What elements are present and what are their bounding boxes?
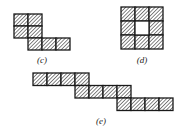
hatched-cell [56, 38, 70, 50]
hatched-cell [28, 26, 42, 38]
hatched-cell [61, 73, 75, 86]
hatched-cell [149, 35, 163, 49]
hatched-cell [47, 73, 61, 86]
hatched-cell [117, 86, 131, 99]
hatched-cell [42, 38, 56, 50]
hatched-cell [14, 26, 28, 38]
figure-label-d: (d) [137, 55, 148, 65]
hatched-cell [131, 98, 145, 111]
hatched-cell [28, 38, 42, 50]
figure-e [33, 73, 173, 111]
hatched-cell [75, 73, 89, 86]
figure-label-e: (e) [96, 116, 106, 126]
hatched-cell [145, 98, 159, 111]
hatched-cell [14, 14, 28, 26]
hatched-cell [33, 73, 47, 86]
hatched-cell [121, 7, 135, 21]
hatched-cell [75, 86, 89, 99]
hatched-cell [149, 21, 163, 35]
figure-c [14, 14, 70, 50]
polyomino-diagram [0, 0, 180, 132]
hatched-cell [159, 98, 173, 111]
hatched-cell [135, 35, 149, 49]
hatched-cell [149, 7, 163, 21]
hatched-cell [121, 21, 135, 35]
figure-d [121, 7, 163, 49]
hatched-cell [117, 98, 131, 111]
hatched-cell [89, 86, 103, 99]
hatched-cell [28, 14, 42, 26]
hatched-cell [121, 35, 135, 49]
hatched-cell [103, 86, 117, 99]
figure-label-c: (c) [37, 55, 47, 65]
hatched-cell [135, 7, 149, 21]
empty-cell [135, 21, 149, 35]
